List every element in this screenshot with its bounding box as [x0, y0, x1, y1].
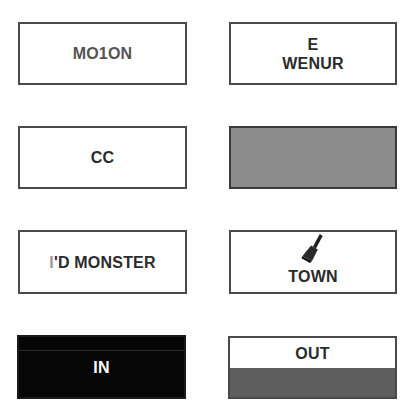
- card-label: I'D MONSTER: [49, 253, 155, 272]
- card-cc[interactable]: CC: [18, 126, 187, 189]
- card-label-line2: WENUR: [282, 54, 343, 73]
- card-label: CC: [91, 148, 115, 167]
- card-out[interactable]: OUT: [228, 336, 397, 399]
- card-label: TOWN: [288, 267, 337, 286]
- card-motion[interactable]: MO1ON: [18, 22, 187, 85]
- card-out-top: OUT: [230, 338, 395, 368]
- card-e-wenur[interactable]: E WENUR: [229, 22, 397, 85]
- card-label-main: 'D MONSTER: [54, 254, 156, 271]
- card-label-line1: E: [308, 35, 319, 54]
- card-grey-blank[interactable]: [229, 126, 397, 189]
- divider: [19, 350, 184, 351]
- card-town[interactable]: TOWN: [229, 230, 397, 294]
- card-in[interactable]: IN: [17, 335, 186, 399]
- card-monster[interactable]: I'D MONSTER: [18, 230, 187, 294]
- paint-brush-icon: [298, 232, 328, 265]
- card-label: IN: [93, 358, 109, 377]
- card-label: MO1ON: [73, 44, 133, 63]
- card-out-fill: [230, 368, 395, 397]
- card-label: OUT: [295, 344, 329, 363]
